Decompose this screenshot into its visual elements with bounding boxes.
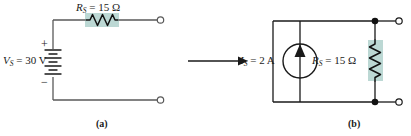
battery-a-symbol [45,50,61,74]
circuit-figure: RS = 15 Ω VS = 30 V + − (a) IS = 2 A RS … [0,0,411,136]
voltage-source-label: VS = 30 V [3,55,47,66]
caption-a: (a) [96,119,108,129]
equivalence-arrow-icon [188,57,248,66]
polarity-minus-sign: − [41,76,48,88]
circuit-drawing [0,0,411,136]
resistor-b-label: RS = 15 Ω [312,55,356,66]
current-source-label-subscript: S [244,59,248,68]
terminal-a-top [157,17,163,23]
polarity-plus-sign: + [41,38,48,50]
voltage-source-label-subscript: S [10,59,14,68]
resistor-a-label-symbol: R [76,1,83,13]
node-dot-b-bottom [372,99,379,106]
resistor-b-label-subscript: S [319,59,323,68]
terminal-b-bottom [396,99,402,105]
terminal-b-top [396,18,402,24]
node-dot-b-top [372,18,379,25]
resistor-b-label-symbol: R [312,54,319,66]
current-source-label: IS = 2 A [240,55,275,66]
voltage-source-label-symbol: V [3,54,10,66]
resistor-a-label-value: = 15 Ω [89,1,120,13]
resistor-b-label-value: = 15 Ω [325,54,356,66]
caption-b: (b) [348,119,360,129]
terminal-a-bottom [157,97,163,103]
circuit-a-group [53,20,157,100]
resistor-a-label: RS = 15 Ω [76,2,120,13]
current-source-label-value: = 2 A [250,54,275,66]
voltage-source-label-value: = 30 V [16,54,46,66]
resistor-a-label-subscript: S [83,6,87,15]
